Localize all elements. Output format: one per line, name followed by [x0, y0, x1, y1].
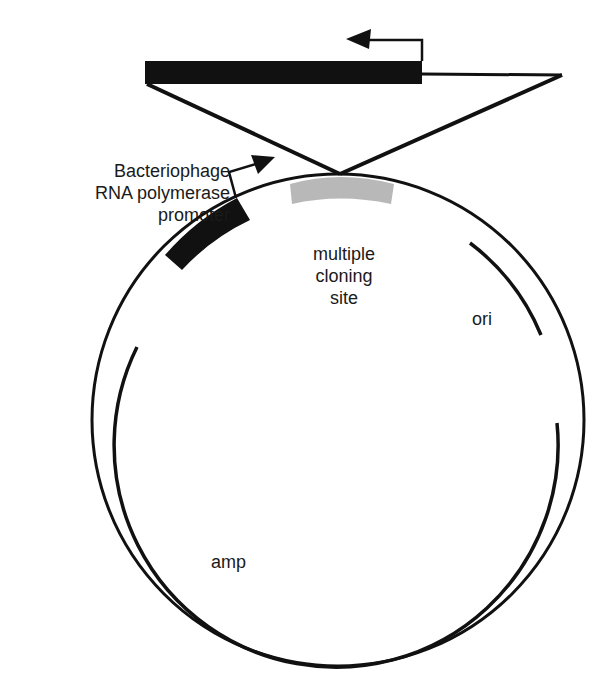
promoter-label-line-2: RNA polymerase [30, 182, 230, 204]
amp-label: amp [211, 551, 246, 573]
insert-dna-bar [145, 61, 422, 84]
promoter-label-line-1: Bacteriophage [30, 160, 230, 182]
promoter-label-line-3: promoter [30, 204, 230, 226]
mcs-label-line-3: site [288, 287, 400, 309]
insert-arrow-stem [368, 40, 422, 61]
expansion-right-line [340, 75, 562, 174]
plasmid-diagram [0, 0, 595, 683]
promoter-arrow-head-icon [251, 155, 275, 174]
mcs-label-line-2: cloning [288, 265, 400, 287]
mcs-label-line-1: multiple [288, 243, 400, 265]
insert-arrow-head-icon [346, 29, 371, 49]
amp-arc [114, 347, 558, 667]
ori-label: ori [472, 308, 492, 330]
promoter-label: Bacteriophage RNA polymerase promoter [30, 160, 230, 226]
mcs-label: multiple cloning site [288, 243, 400, 309]
insert-right-line [422, 74, 562, 75]
mcs-region [290, 177, 394, 204]
